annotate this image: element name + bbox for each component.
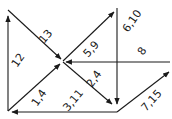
edge-label-12: 12	[9, 51, 28, 70]
edge-label-3-11: 3,11	[60, 87, 86, 114]
edge-label-13: 13	[36, 27, 55, 46]
edge-label-7-15: 7,15	[139, 87, 165, 114]
edge-label-8: 8	[135, 45, 150, 58]
flow-network-diagram: 12 13 5,9 6,10 8 2,4 1,4 3,11 7,15	[0, 0, 172, 119]
edge-label-1-4: 1,4	[29, 87, 50, 109]
edge-6-10: 6,10	[117, 7, 145, 104]
edge-label-6-10: 6,10	[120, 7, 145, 35]
edge-5-9: 5,9	[63, 12, 114, 61]
edge-3-11: 3,11	[12, 87, 117, 114]
edge-1-4: 1,4	[8, 64, 60, 111]
edge-label-2-4: 2,4	[84, 68, 105, 90]
edge-7-15: 7,15	[117, 72, 169, 114]
